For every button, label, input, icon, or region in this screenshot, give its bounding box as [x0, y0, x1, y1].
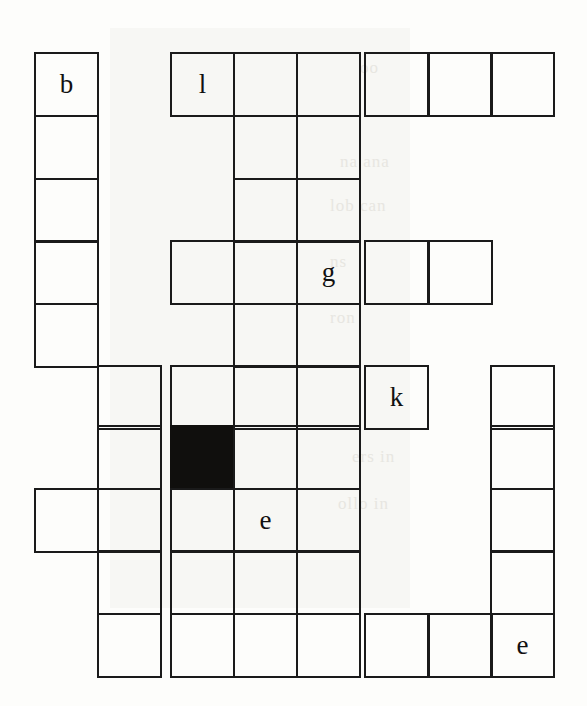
grid-cell-empty[interactable] [296, 115, 361, 180]
crossword-grid[interactable]: blegke [0, 0, 587, 706]
cell-letter: b [60, 71, 74, 98]
grid-cell-empty[interactable] [428, 52, 493, 117]
grid-cell-empty[interactable] [296, 613, 361, 678]
grid-cell-empty[interactable] [296, 550, 361, 615]
grid-cell-empty[interactable] [364, 52, 429, 117]
grid-cell-empty[interactable] [296, 178, 361, 243]
cell-letter: l [199, 71, 207, 98]
grid-cell-empty[interactable] [364, 240, 429, 305]
grid-cell-filled-letter[interactable]: k [364, 365, 429, 430]
grid-cell-empty[interactable] [170, 488, 235, 553]
grid-cell-empty[interactable] [97, 613, 162, 678]
cell-letter: e [260, 507, 272, 534]
grid-cell-empty[interactable] [170, 365, 235, 430]
grid-cell-empty[interactable] [97, 365, 162, 430]
grid-cell-empty[interactable] [296, 365, 361, 430]
grid-cell-empty[interactable] [233, 178, 298, 243]
grid-cell-empty[interactable] [490, 52, 555, 117]
grid-cell-empty[interactable] [364, 613, 429, 678]
grid-cell-empty[interactable] [233, 303, 298, 368]
grid-cell-filled-letter[interactable]: g [296, 240, 361, 305]
grid-cell-empty[interactable] [233, 613, 298, 678]
grid-cell-empty[interactable] [170, 240, 235, 305]
grid-cell-empty[interactable] [296, 425, 361, 490]
grid-cell-empty[interactable] [428, 240, 493, 305]
grid-cell-empty[interactable] [490, 425, 555, 490]
grid-cell-filled-letter[interactable]: e [233, 488, 298, 553]
grid-cell-empty[interactable] [34, 303, 99, 368]
grid-cell-filled-letter[interactable]: b [34, 52, 99, 117]
grid-cell-empty[interactable] [233, 115, 298, 180]
grid-cell-empty[interactable] [34, 240, 99, 305]
grid-cell-empty[interactable] [233, 240, 298, 305]
cell-letter: e [517, 632, 529, 659]
grid-cell-empty[interactable] [34, 488, 99, 553]
grid-cell-blocked [170, 425, 235, 490]
grid-cell-empty[interactable] [490, 488, 555, 553]
grid-cell-filled-letter[interactable]: e [490, 613, 555, 678]
grid-cell-empty[interactable] [296, 52, 361, 117]
grid-cell-empty[interactable] [428, 613, 493, 678]
grid-cell-empty[interactable] [34, 178, 99, 243]
grid-cell-empty[interactable] [97, 488, 162, 553]
grid-cell-empty[interactable] [296, 303, 361, 368]
grid-cell-empty[interactable] [97, 425, 162, 490]
cell-letter: k [390, 384, 404, 411]
grid-cell-empty[interactable] [296, 488, 361, 553]
grid-cell-empty[interactable] [233, 365, 298, 430]
grid-cell-empty[interactable] [233, 52, 298, 117]
grid-cell-empty[interactable] [233, 550, 298, 615]
grid-cell-empty[interactable] [34, 115, 99, 180]
grid-cell-filled-letter[interactable]: l [170, 52, 235, 117]
grid-cell-empty[interactable] [170, 613, 235, 678]
grid-cell-empty[interactable] [490, 365, 555, 430]
grid-cell-empty[interactable] [490, 550, 555, 615]
grid-cell-empty[interactable] [97, 550, 162, 615]
crossword-grid-fragment: oona analob cannsroners inollo in blegke [0, 0, 587, 706]
cell-letter: g [322, 259, 336, 286]
grid-cell-empty[interactable] [170, 550, 235, 615]
grid-cell-empty[interactable] [233, 425, 298, 490]
